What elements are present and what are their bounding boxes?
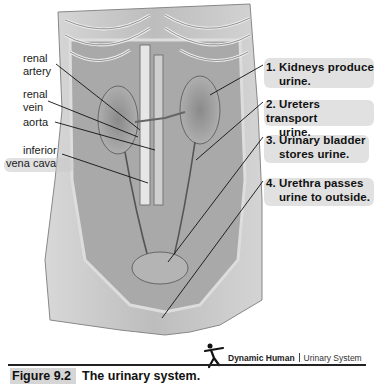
label-number: 2. — [266, 98, 276, 110]
label-urethra: 4. Urethra passes urine to outside. — [266, 176, 370, 204]
label-number: 1. — [266, 61, 276, 73]
label-line: Urinary bladder — [279, 134, 366, 146]
caption-rule — [8, 364, 366, 366]
label-kidneys: 1. Kidneys produce urine. — [266, 60, 374, 88]
label-inferior-vena-cava: inferior vena cava — [6, 144, 57, 170]
label-line: Urethra passes — [279, 177, 364, 189]
label-line: artery — [23, 65, 51, 78]
label-line: aorta — [23, 116, 48, 129]
label-number: 3. — [266, 134, 276, 146]
brand-line: Dynamic HumanUrinary System — [228, 353, 362, 363]
label-line: stores urine. — [266, 147, 366, 161]
label-urinary-bladder: 3. Urinary bladder stores urine. — [266, 133, 366, 161]
caption-title: The urinary system. — [82, 369, 200, 383]
label-line: urine. — [266, 74, 374, 88]
label-line: inferior — [6, 144, 57, 157]
label-line: vein — [23, 101, 47, 114]
label-line: Kidneys produce — [279, 61, 374, 73]
label-renal-artery: renal artery — [23, 52, 51, 78]
label-number: 4. — [266, 177, 276, 189]
urinary-system-figure: renal artery renal vein aorta inferior v… — [0, 0, 374, 388]
brand-separator — [299, 353, 300, 362]
brand-section: Urinary System — [304, 353, 362, 363]
label-line: vena cava — [6, 157, 57, 170]
label-line: renal — [23, 52, 51, 65]
figure-caption: Figure 9.2The urinary system. — [10, 369, 200, 383]
caption-number: Figure 9.2 — [10, 368, 76, 384]
label-renal-vein: renal vein — [23, 88, 47, 114]
label-line: renal — [23, 88, 47, 101]
label-aorta: aorta — [23, 116, 48, 129]
label-line: urine to outside. — [266, 190, 370, 204]
brand-name: Dynamic Human — [228, 353, 295, 363]
